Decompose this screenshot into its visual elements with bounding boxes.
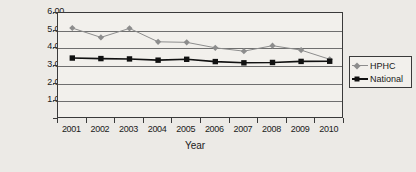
x-axis-tick [314,118,315,123]
legend-label-national: National [370,74,403,84]
plot-area [57,12,343,118]
series-line-national [72,58,329,63]
x-axis-tick-label: 2001 [56,124,86,134]
x-axis-tick [200,118,201,123]
chart-legend[interactable]: HPHC National [349,56,412,88]
x-axis-tick [57,118,58,123]
data-point-diamond [212,45,218,51]
data-point-square [98,56,103,61]
x-axis-tick-label: 2010 [314,124,344,134]
diamond-marker-icon [353,62,360,69]
series-lines [58,13,344,119]
x-axis-tick [343,118,344,123]
x-axis-tick-label: 2005 [171,124,201,134]
x-axis-tick [114,118,115,123]
x-axis-title: Year [0,140,390,151]
x-axis-tick-label: 2004 [142,124,172,134]
x-axis-tick [229,118,230,123]
x-axis-tick [171,118,172,123]
data-point-diamond [69,25,75,31]
x-axis-tick-label: 2003 [114,124,144,134]
data-point-square [213,59,218,64]
data-point-diamond [269,43,275,49]
data-point-square [298,59,303,64]
data-point-diamond [184,39,190,45]
data-point-diamond [98,34,104,40]
data-point-diamond [298,47,304,53]
x-axis-tick [286,118,287,123]
x-axis-tick-label: 2008 [257,124,287,134]
series-line-hphc [72,28,329,59]
x-axis-tick-label: 2007 [228,124,258,134]
legend-line-hphc [352,65,368,66]
x-axis-tick [86,118,87,123]
data-point-square [270,60,275,65]
x-axis-tick-label: 2006 [199,124,229,134]
data-point-square [327,59,332,64]
data-point-square [155,57,160,62]
data-point-square [184,57,189,62]
square-marker-icon [355,76,360,81]
x-axis-tick [143,118,144,123]
data-point-square [70,55,75,60]
x-axis-tick [257,118,258,123]
x-axis-tick-label: 2002 [85,124,115,134]
chart-page: 6.005.004.003.002.001.00- 20012002200320… [0,0,416,172]
data-point-square [127,56,132,61]
legend-line-national [352,78,368,80]
data-point-square [241,60,246,65]
data-point-diamond [241,48,247,54]
legend-item-national[interactable]: National [352,72,409,85]
data-point-diamond [155,39,161,45]
data-point-diamond [126,25,132,31]
legend-item-hphc[interactable]: HPHC [352,59,409,72]
x-axis-tick-label: 2009 [285,124,315,134]
legend-label-hphc: HPHC [370,61,396,71]
